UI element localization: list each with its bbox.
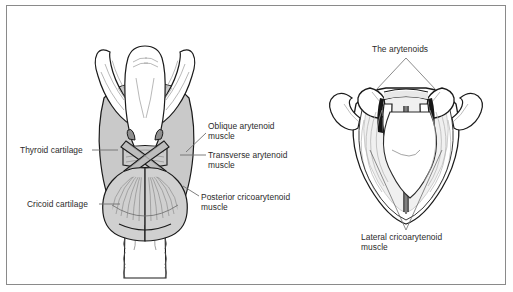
posterior-view-drawing [92, 46, 206, 278]
superior-view-drawing [330, 58, 483, 230]
leader-arytenoids-left [376, 58, 406, 90]
figure-page: Thyroid cartilage Cricoid cartilage Obli… [0, 0, 513, 292]
label-lateral-cricoarytenoid-muscle: Lateral cricoarytenoid muscle [361, 232, 442, 252]
label-thyroid-cartilage: Thyroid cartilage [20, 145, 83, 155]
label-oblique-arytenoid-muscle: Oblique arytenoid muscle [208, 121, 275, 141]
label-the-arytenoids: The arytenoids [372, 44, 428, 54]
label-transverse-arytenoid-muscle: Transverse arytenoid muscle [208, 150, 287, 170]
label-cricoid-cartilage: Cricoid cartilage [27, 199, 88, 209]
label-posterior-cricoarytenoid-muscle: Posterior cricoarytenoid muscle [201, 192, 290, 212]
leader-arytenoids-right [406, 58, 436, 90]
